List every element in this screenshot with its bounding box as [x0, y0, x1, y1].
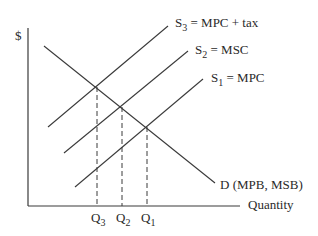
supply-curve-s3 — [48, 26, 168, 127]
q3-label: Q3 — [91, 210, 105, 228]
y-axis-label: $ — [15, 28, 22, 43]
supply-curve-s2 — [64, 51, 188, 153]
demand-curve — [44, 46, 215, 183]
s2-label: S2 = MSC — [195, 42, 249, 60]
supply-curve-s1 — [75, 79, 203, 187]
q2-label: Q2 — [116, 210, 130, 228]
supply-demand-diagram: $ S3 = MPC + tax S2 = MSC S1 = MPC D (MP… — [0, 0, 318, 236]
s3-label: S3 = MPC + tax — [175, 15, 259, 33]
s1-label: S1 = MPC — [211, 70, 265, 88]
q1-label: Q1 — [141, 210, 155, 228]
demand-label: D (MPB, MSB) — [220, 177, 303, 192]
x-axis-label: Quantity — [248, 197, 294, 212]
